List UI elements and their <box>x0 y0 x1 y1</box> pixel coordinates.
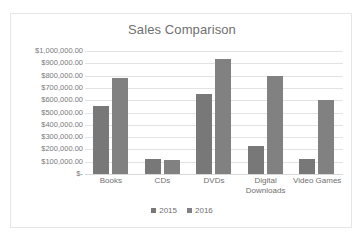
x-axis-category-label: Books <box>85 176 137 186</box>
bar-group <box>291 51 343 174</box>
y-axis-tick-label: $300,000.00 <box>17 133 83 141</box>
x-axis-labels: BooksCDsDVDsDigital DownloadsVideo Games <box>85 176 343 204</box>
y-axis-tick-label: $1,000,000.00 <box>17 47 83 55</box>
bar-group <box>137 51 189 174</box>
chart-title: Sales Comparison <box>11 22 353 37</box>
bar-group <box>240 51 292 174</box>
y-axis-tick-label: $200,000.00 <box>17 145 83 153</box>
chart-legend[interactable]: 20152016 <box>11 206 353 215</box>
bar-2016[interactable] <box>164 160 180 174</box>
y-axis-tick-label: $400,000.00 <box>17 121 83 129</box>
scan-top-cutoff-strip: ........ ....... .......... <box>0 0 364 7</box>
bar-2016[interactable] <box>318 100 334 174</box>
bar-2015[interactable] <box>145 159 161 174</box>
bar-group <box>188 51 240 174</box>
chart-container[interactable]: Sales Comparison $1,000,000.00$900,000.0… <box>10 13 352 228</box>
y-axis-tick-label: $100,000.00 <box>17 158 83 166</box>
legend-item-2015[interactable]: 2015 <box>151 206 177 215</box>
x-axis-category-label: CDs <box>137 176 189 186</box>
y-axis-tick-label: $- <box>17 170 83 178</box>
bar-group <box>85 51 137 174</box>
y-axis-tick-label: $700,000.00 <box>17 84 83 92</box>
legend-item-2016[interactable]: 2016 <box>187 206 213 215</box>
bar-2016[interactable] <box>267 76 283 174</box>
bar-2016[interactable] <box>112 78 128 174</box>
bar-2015[interactable] <box>93 106 109 174</box>
x-axis-category-label: Video Games <box>291 176 343 186</box>
axis-baseline <box>85 174 343 175</box>
y-axis: $1,000,000.00$900,000.00$800,000.00$700,… <box>13 51 83 174</box>
bar-2015[interactable] <box>196 94 212 174</box>
scan-ghost-text: ........ ....... .......... <box>4 0 69 2</box>
legend-swatch-icon <box>151 208 156 213</box>
legend-label: 2015 <box>159 206 177 215</box>
plot-area <box>85 51 343 174</box>
y-axis-tick-label: $600,000.00 <box>17 96 83 104</box>
y-axis-tick-label: $800,000.00 <box>17 72 83 80</box>
x-axis-category-label: Digital Downloads <box>240 176 292 195</box>
legend-label: 2016 <box>195 206 213 215</box>
legend-swatch-icon <box>187 208 192 213</box>
y-axis-tick-label: $900,000.00 <box>17 59 83 67</box>
bar-2016[interactable] <box>215 59 231 174</box>
y-axis-tick-label: $500,000.00 <box>17 109 83 117</box>
bar-2015[interactable] <box>248 146 264 174</box>
x-axis-category-label: DVDs <box>188 176 240 186</box>
bar-2015[interactable] <box>299 159 315 174</box>
